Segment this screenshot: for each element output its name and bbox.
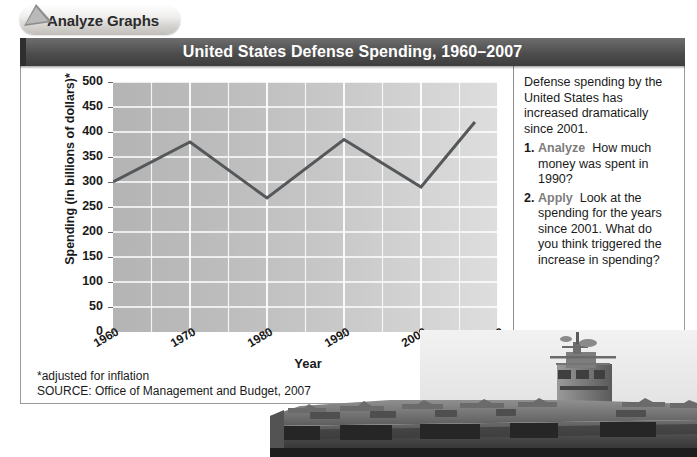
y-tick-label: 300 (29, 174, 103, 188)
panel-question-keyword: Apply (538, 191, 573, 205)
y-tick-mark (108, 207, 113, 208)
y-tick-label: 500 (29, 74, 103, 88)
panel-question-number: 2. (524, 191, 538, 269)
y-tick-mark (108, 257, 113, 258)
y-tick-mark (108, 132, 113, 133)
y-tick-mark (108, 82, 113, 83)
panel-question-keyword: Analyze (538, 141, 585, 155)
y-tick-label: 100 (29, 274, 103, 288)
y-tick-label: 450 (29, 99, 103, 113)
panel-question-number: 1. (524, 141, 538, 188)
side-panel-intro: Defense spending by the United States ha… (524, 75, 674, 137)
y-tick-mark (108, 307, 113, 308)
y-tick-label: 200 (29, 224, 103, 238)
y-tick-label: 150 (29, 249, 103, 263)
x-tick-mark (190, 332, 191, 337)
y-tick-label: 50 (29, 299, 103, 313)
panel-question: 2.Apply Look at the spending for the yea… (524, 191, 674, 269)
y-tick-mark (108, 182, 113, 183)
panel-question-body: Analyze How much money was spent in 1990… (538, 141, 674, 188)
y-tick-mark (108, 232, 113, 233)
aircraft-carrier-photo (270, 330, 697, 457)
panel-question-body: Apply Look at the spending for the years… (538, 191, 674, 269)
y-tick-mark (108, 157, 113, 158)
y-tick-label: 250 (29, 199, 103, 213)
x-tick-mark (113, 332, 114, 337)
chart-plot-svg (113, 82, 498, 332)
y-tick-label: 0 (29, 324, 103, 338)
side-panel-questions: 1.Analyze How much money was spent in 19… (524, 141, 674, 268)
y-tick-label: 350 (29, 149, 103, 163)
y-tick-mark (108, 282, 113, 283)
y-tick-label: 400 (29, 124, 103, 138)
x-tick-mark (267, 332, 268, 337)
y-tick-mark (108, 107, 113, 108)
panel-question: 1.Analyze How much money was spent in 19… (524, 141, 674, 188)
title-left-cap (20, 38, 26, 66)
page-title: United States Defense Spending, 1960–200… (20, 38, 685, 66)
chart-title-bar: United States Defense Spending, 1960–200… (20, 38, 685, 66)
plot-area (113, 82, 498, 332)
